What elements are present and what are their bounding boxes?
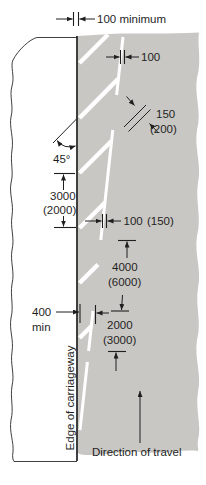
label-gap-length-alt: (6000) — [108, 276, 141, 288]
label-mark-length-alt: (3000) — [103, 334, 136, 346]
label-edge-clearance: 400 — [32, 306, 51, 318]
road-marking-diagram: 100 minimum 100 150 (200) 45° 3000 (2000… — [0, 0, 206, 485]
label-edge-of-carriageway: Edge of carriageway — [64, 345, 76, 450]
label-angle: 45° — [53, 153, 70, 165]
label-line-width-upper: 100 — [141, 51, 160, 63]
label-stripe-width-alt: (200) — [150, 123, 177, 135]
road-marking-diagram-page: 100 minimum 100 150 (200) 45° 3000 (2000… — [0, 0, 206, 485]
label-top-gap: 100 minimum — [97, 13, 166, 25]
label-line-width-lower: 100 — [124, 215, 143, 227]
label-stripe-spacing-alt: (2000) — [43, 204, 76, 216]
label-gap-length: 4000 — [112, 261, 138, 273]
label-stripe-width: 150 — [156, 108, 175, 120]
carriageway-surface — [78, 33, 200, 456]
label-direction-of-travel: Direction of travel — [92, 446, 181, 458]
label-stripe-spacing: 3000 — [50, 190, 76, 202]
label-edge-clearance-suffix: min — [32, 321, 51, 333]
dim-top-gap: 100 minimum — [56, 12, 166, 26]
label-line-width-lower-alt: (150) — [147, 215, 174, 227]
label-mark-length: 2000 — [107, 319, 133, 331]
